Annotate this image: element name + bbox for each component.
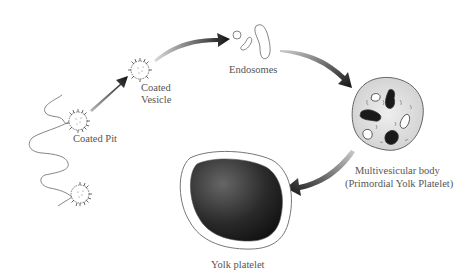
multivesicular-body-label-line1: Multivesicular body xyxy=(355,165,440,177)
coated-pit-lower-icon xyxy=(71,182,92,206)
endosomes-label: Endosomes xyxy=(229,64,277,76)
coated-pit-icon xyxy=(69,109,90,133)
multivesicular-body-icon xyxy=(352,77,423,150)
diagram-canvas xyxy=(0,0,470,277)
coated-vesicle-icon xyxy=(128,58,152,82)
coated-vesicle-label-line2: Vesicle xyxy=(141,94,171,106)
arrow-pit-to-vesicle-icon xyxy=(90,76,128,112)
yolk-platelet-label: Yolk platelet xyxy=(211,259,264,271)
coated-pit-label: Coated Pit xyxy=(73,133,117,145)
arrow-vesicle-to-endosomes-icon xyxy=(154,33,230,62)
plasma-membrane-icon xyxy=(29,95,72,206)
multivesicular-body-label-line2: (Primordial Yolk Platelet) xyxy=(345,178,453,190)
arrow-endosomes-to-mvb-icon xyxy=(280,50,352,88)
yolk-platelet-icon xyxy=(180,151,291,249)
endosomes-icon xyxy=(233,25,270,59)
coated-vesicle-label-line1: Coated xyxy=(141,82,171,94)
